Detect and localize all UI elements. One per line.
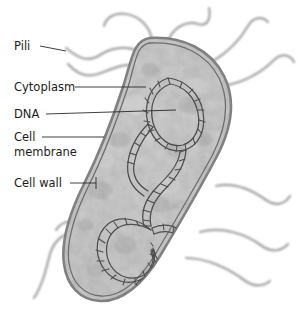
label-cell-wall: Cell wall — [14, 176, 62, 190]
pilus-icon — [200, 230, 288, 250]
diagram-canvas: Pili Cytoplasm DNA Cell membrane Cell wa… — [0, 0, 300, 315]
pilus-icon — [216, 185, 290, 204]
dna-helix-rail — [136, 284, 159, 303]
label-pili: Pili — [14, 39, 30, 53]
pilus-icon — [186, 258, 270, 285]
pilus-icon — [104, 14, 152, 40]
bacterial-cell-diagram: Pili Cytoplasm DNA Cell membrane Cell wa… — [0, 0, 300, 315]
pilus-icon — [212, 18, 268, 62]
pilus-icon — [168, 8, 210, 42]
label-cell-membrane-line2: membrane — [14, 145, 77, 159]
label-dna: DNA — [14, 107, 39, 121]
dna-helix-rail — [140, 280, 160, 298]
leader-line-pili — [40, 46, 66, 51]
pilus-icon — [224, 55, 294, 86]
label-cell-membrane-line1: Cell — [14, 130, 36, 144]
label-cytoplasm: Cytoplasm — [14, 80, 75, 94]
